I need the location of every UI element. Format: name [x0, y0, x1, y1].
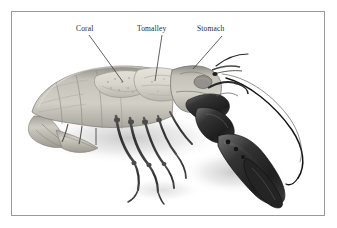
annotation-label-stomach: Stomach	[197, 24, 224, 33]
lobster-illustration	[12, 12, 324, 215]
lobster-eye	[212, 72, 217, 76]
annotation-label-coral: Coral	[76, 24, 93, 33]
figure-root: Coral Tomalley Stomach	[0, 0, 337, 228]
antennule-upper	[216, 54, 248, 66]
annotation-label-tomalley: Tomalley	[137, 24, 166, 33]
lobster-photograph	[12, 12, 324, 215]
